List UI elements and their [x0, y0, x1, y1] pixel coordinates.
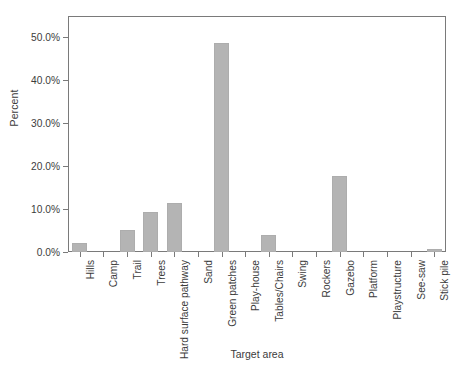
y-tick-label: 10.0% [31, 203, 60, 216]
bar [167, 203, 182, 252]
x-tick-mark [245, 252, 246, 257]
x-tick-mark [434, 252, 435, 257]
bar [214, 43, 229, 252]
y-tick-label: 0.0% [37, 246, 60, 259]
x-tick-mark [198, 252, 199, 257]
y-tick-label: 20.0% [31, 160, 60, 173]
x-tick-mark [387, 252, 388, 257]
bar [261, 235, 276, 252]
bar-series [68, 16, 446, 252]
y-tick-label: 50.0% [31, 31, 60, 44]
x-tick-mark [411, 252, 412, 257]
x-tick-mark [363, 252, 364, 257]
x-tick-mark [80, 252, 81, 257]
bar [72, 243, 87, 252]
bar [332, 176, 347, 252]
x-tick-mark [127, 252, 128, 257]
y-tick: 0.0% [0, 246, 68, 259]
x-tick-mark [174, 252, 175, 257]
y-tick-label: 40.0% [31, 74, 60, 87]
bar-chart: Percent 0.0%10.0%20.0%30.0%40.0%50.0% Hi… [0, 0, 468, 377]
bar [143, 212, 158, 252]
x-tick-mark [222, 252, 223, 257]
x-tick-mark [151, 252, 152, 257]
bar [120, 230, 135, 252]
x-tick-mark [103, 252, 104, 257]
x-tick-mark [292, 252, 293, 257]
y-tick-label: 30.0% [31, 117, 60, 130]
x-tick-mark [340, 252, 341, 257]
x-tick-mark [316, 252, 317, 257]
x-axis-title: Target area [68, 348, 446, 360]
y-axis-title: Percent [8, 8, 22, 208]
x-tick-mark [269, 252, 270, 257]
